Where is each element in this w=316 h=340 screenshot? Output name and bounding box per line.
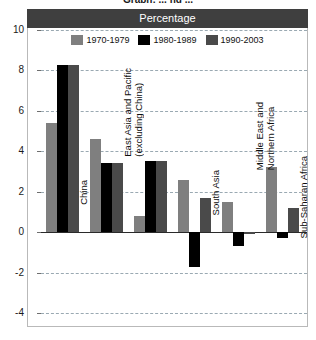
- chart-header-band: Percentage: [27, 9, 308, 28]
- y-tick-mark: [37, 151, 41, 152]
- bar: [266, 167, 277, 232]
- bar-group: [222, 30, 255, 313]
- bar: [101, 163, 112, 232]
- bar: [178, 180, 189, 233]
- y-tick-mark: [37, 313, 41, 314]
- y-tick-mark: [37, 111, 41, 112]
- bar: [134, 216, 145, 232]
- y-tick-mark: [37, 70, 41, 71]
- y-axis-tick-label: 4: [0, 146, 24, 156]
- bar: [68, 65, 79, 232]
- y-axis-tick-label: 2: [0, 187, 24, 197]
- plot-area: ChinaEast Asia and Pacific (excluding Ch…: [41, 30, 307, 313]
- category-label: East Asia and Pacific (excluding China): [123, 68, 144, 157]
- bar-group: [266, 30, 299, 313]
- y-tick-mark: [37, 192, 41, 193]
- y-axis-tick-label: 10: [0, 25, 24, 35]
- bar: [145, 161, 156, 232]
- category-label: Middle East and Northern Africa: [255, 102, 276, 170]
- y-axis-tick-label: 6: [0, 106, 24, 116]
- bar: [156, 161, 167, 232]
- category-label: China: [79, 180, 90, 205]
- bar-group: [46, 30, 79, 313]
- y-axis-tick-label: 0: [0, 227, 24, 237]
- cropped-figure-title: Graph: ... ng ...: [0, 0, 316, 3]
- bar: [222, 202, 233, 232]
- category-label: South Asia: [211, 170, 222, 215]
- bar: [277, 232, 288, 238]
- y-tick-mark: [37, 232, 41, 233]
- bar: [46, 123, 57, 232]
- bar: [112, 163, 123, 232]
- y-tick-mark: [37, 30, 41, 31]
- bar: [90, 139, 101, 232]
- category-label: Sub-Saharan Africa: [299, 156, 310, 238]
- y-axis-tick-label: -2: [0, 268, 24, 278]
- bar-group: [90, 30, 123, 313]
- y-tick-mark: [37, 273, 41, 274]
- bar: [233, 232, 244, 246]
- y-axis-tick-label: 8: [0, 65, 24, 75]
- bar: [57, 65, 68, 232]
- y-axis-tick-label: -4: [0, 308, 24, 318]
- gridline: [41, 313, 307, 314]
- bar: [189, 232, 200, 266]
- bar: [244, 232, 255, 234]
- bar-group: [178, 30, 211, 313]
